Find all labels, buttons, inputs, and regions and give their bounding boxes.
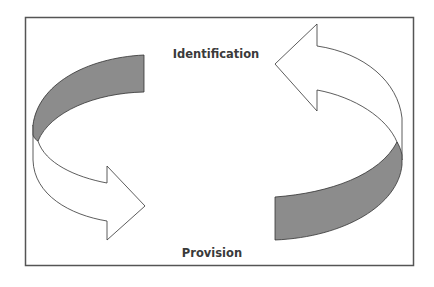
right-arrow-body [275,24,402,160]
left-arrow-body [33,125,145,240]
diagram-canvas: Identification Provision [0,0,434,287]
cycle-diagram [0,0,434,287]
right-arrow-band [275,142,402,240]
left-arrow-band [33,55,144,141]
left-arrow [33,55,145,240]
identification-label: Identification [173,47,260,61]
provision-label: Provision [182,246,242,260]
right-arrow [275,24,402,240]
